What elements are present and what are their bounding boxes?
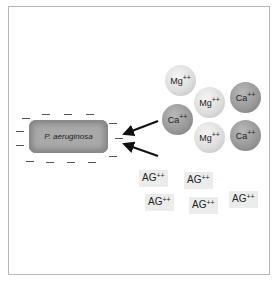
ag-text: AG	[148, 196, 162, 207]
arrow-cations-to-surface	[124, 121, 158, 134]
ion-charge: ++	[247, 129, 255, 136]
ag-charge: ++	[162, 196, 170, 203]
aminoglycoside-label: AG++	[184, 172, 213, 189]
ca-ion: Ca++	[230, 120, 261, 151]
ag-text: AG	[232, 193, 246, 204]
arrow-aminoglycosides-to-surface	[124, 144, 158, 156]
ag-charge: ++	[201, 174, 209, 181]
ag-text: AG	[142, 172, 156, 183]
ion-charge: ++	[179, 113, 187, 120]
ion-symbol: Ca	[236, 131, 248, 141]
ag-text: AG	[192, 199, 206, 210]
ion-symbol: Mg	[199, 133, 212, 143]
ion-charge: ++	[183, 74, 191, 81]
aminoglycoside-label: AG++	[189, 197, 218, 214]
ion-symbol: Ca	[236, 93, 248, 103]
aminoglycoside-label: AG++	[229, 191, 258, 208]
mg-ion: Mg++	[194, 87, 225, 118]
ca-ion: Ca++	[162, 104, 193, 135]
ion-charge: ++	[212, 131, 220, 138]
ca-ion: Ca++	[230, 82, 261, 113]
ion-symbol: Mg	[170, 76, 183, 86]
ag-charge: ++	[156, 172, 164, 179]
ag-charge: ++	[206, 199, 214, 206]
ion-charge: ++	[212, 96, 220, 103]
mg-ion: Mg++	[194, 122, 225, 153]
ion-charge: ++	[247, 91, 255, 98]
ion-symbol: Ca	[168, 115, 180, 125]
ion-symbol: Mg	[199, 98, 212, 108]
ag-text: AG	[187, 174, 201, 185]
aminoglycoside-label: AG++	[145, 194, 174, 211]
mg-ion: Mg++	[165, 65, 196, 96]
aminoglycoside-label: AG++	[139, 170, 168, 187]
ag-charge: ++	[246, 193, 254, 200]
